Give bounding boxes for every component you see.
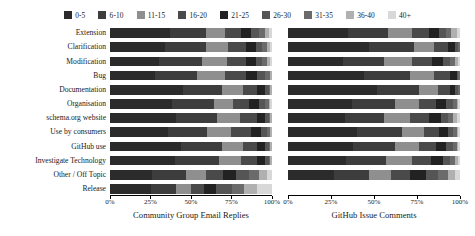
bar-segment-40plus[interactable]: [455, 170, 460, 180]
bar-segment-40plus[interactable]: [270, 99, 272, 109]
bar-segment-0-5[interactable]: [288, 170, 334, 180]
bar-segment-0-5[interactable]: [110, 71, 155, 81]
bar-segment-21-25[interactable]: [241, 28, 251, 38]
bar-segment-11-15[interactable]: [176, 184, 191, 194]
bar-segment-0-5[interactable]: [288, 42, 369, 52]
legend-item-36-40[interactable]: 36-40: [346, 11, 375, 20]
bar-segment-26-30[interactable]: [441, 113, 448, 123]
bar-segment-26-30[interactable]: [426, 170, 438, 180]
legend-item-0-5[interactable]: 0-5: [64, 11, 85, 20]
bar-segment-6-10[interactable]: [353, 142, 394, 152]
bar-segment-0-5[interactable]: [110, 184, 151, 194]
bar-segment-6-10[interactable]: [172, 99, 214, 109]
bar-segment-6-10[interactable]: [159, 57, 203, 67]
bar-segment-16-20[interactable]: [225, 28, 241, 38]
bar-segment-31-35[interactable]: [249, 170, 259, 180]
bar-row[interactable]: [110, 99, 272, 109]
bar-segment-16-20[interactable]: [419, 142, 436, 152]
bar-segment-11-15[interactable]: [197, 71, 225, 81]
bar-segment-16-20[interactable]: [434, 42, 448, 52]
bar-segment-21-25[interactable]: [439, 127, 448, 137]
bar-segment-0-5[interactable]: [110, 156, 175, 166]
bar-segment-16-20[interactable]: [231, 127, 250, 137]
bar-segment-11-15[interactable]: [414, 42, 435, 52]
bar-segment-6-10[interactable]: [364, 71, 410, 81]
bar-segment-36-40[interactable]: [244, 184, 257, 194]
bar-segment-21-25[interactable]: [436, 142, 446, 152]
bar-segment-16-20[interactable]: [243, 142, 258, 152]
bar-row[interactable]: [288, 184, 460, 194]
bar-segment-21-25[interactable]: [436, 99, 446, 109]
bar-segment-6-10[interactable]: [183, 85, 222, 95]
bar-segment-6-10[interactable]: [334, 170, 368, 180]
bar-segment-0-5[interactable]: [288, 57, 343, 67]
legend-item-6-10[interactable]: 6-10: [98, 11, 123, 20]
bar-segment-36-40[interactable]: [270, 85, 272, 95]
bar-segment-11-15[interactable]: [388, 28, 412, 38]
bar-segment-36-40[interactable]: [448, 170, 455, 180]
bar-segment-21-25[interactable]: [429, 28, 439, 38]
bar-segment-40plus[interactable]: [457, 28, 460, 38]
bar-segment-40plus[interactable]: [457, 113, 460, 123]
bar-segment-40plus[interactable]: [257, 184, 272, 194]
bar-segment-11-15[interactable]: [217, 113, 240, 123]
bar-segment-6-10[interactable]: [175, 156, 219, 166]
bar-segment-21-25[interactable]: [257, 85, 265, 95]
bar-segment-6-10[interactable]: [151, 184, 176, 194]
bar-segment-16-20[interactable]: [240, 113, 258, 123]
bar-segment-21-25[interactable]: [429, 113, 441, 123]
bar-segment-40plus[interactable]: [458, 127, 460, 137]
bar-segment-16-20[interactable]: [206, 170, 224, 180]
bar-segment-21-25[interactable]: [432, 57, 442, 67]
bar-segment-21-25[interactable]: [223, 170, 236, 180]
bar-row[interactable]: [288, 57, 460, 67]
bar-segment-21-25[interactable]: [257, 156, 265, 166]
legend-item-31-35[interactable]: 31-35: [304, 11, 333, 20]
bar-row[interactable]: [110, 57, 272, 67]
bar-segment-16-20[interactable]: [434, 71, 449, 81]
bar-segment-11-15[interactable]: [206, 28, 225, 38]
bar-segment-21-25[interactable]: [257, 142, 265, 152]
bar-segment-0-5[interactable]: [288, 71, 364, 81]
bar-segment-16-20[interactable]: [412, 57, 433, 67]
bar-segment-6-10[interactable]: [345, 113, 385, 123]
bar-segment-0-5[interactable]: [110, 57, 159, 67]
bar-row[interactable]: [110, 42, 272, 52]
bar-segment-26-30[interactable]: [251, 28, 259, 38]
bar-segment-16-20[interactable]: [227, 57, 246, 67]
bar-segment-11-15[interactable]: [207, 127, 231, 137]
bar-segment-36-40[interactable]: [270, 142, 272, 152]
bar-segment-0-5[interactable]: [110, 99, 172, 109]
bar-segment-21-25[interactable]: [246, 71, 257, 81]
bar-row[interactable]: [288, 28, 460, 38]
bar-segment-21-25[interactable]: [251, 127, 261, 137]
bar-segment-6-10[interactable]: [357, 127, 402, 137]
bar-row[interactable]: [110, 71, 272, 81]
bar-segment-16-20[interactable]: [225, 71, 246, 81]
bar-segment-16-20[interactable]: [424, 127, 439, 137]
bar-segment-0-5[interactable]: [288, 99, 352, 109]
bar-segment-26-30[interactable]: [439, 28, 446, 38]
bar-segment-11-15[interactable]: [386, 156, 412, 166]
bar-segment-11-15[interactable]: [219, 156, 242, 166]
bar-segment-36-40[interactable]: [270, 127, 272, 137]
bar-segment-11-15[interactable]: [222, 85, 243, 95]
bar-segment-16-20[interactable]: [243, 85, 258, 95]
bar-segment-0-5[interactable]: [288, 113, 345, 123]
bar-row[interactable]: [288, 170, 460, 180]
bar-segment-21-25[interactable]: [410, 170, 425, 180]
bar-segment-21-25[interactable]: [448, 42, 455, 52]
bar-row[interactable]: [288, 99, 460, 109]
bar-segment-16-20[interactable]: [191, 184, 204, 194]
bar-row[interactable]: [288, 85, 460, 95]
bar-segment-0-5[interactable]: [110, 170, 152, 180]
bar-segment-36-40[interactable]: [270, 156, 272, 166]
bar-row[interactable]: [288, 156, 460, 166]
bar-segment-0-5[interactable]: [288, 142, 353, 152]
bar-segment-40plus[interactable]: [458, 142, 460, 152]
bar-segment-26-30[interactable]: [446, 99, 453, 109]
bar-segment-40plus[interactable]: [458, 156, 460, 166]
bar-segment-40plus[interactable]: [270, 42, 272, 52]
bar-row[interactable]: [110, 85, 272, 95]
bar-row[interactable]: [110, 28, 272, 38]
